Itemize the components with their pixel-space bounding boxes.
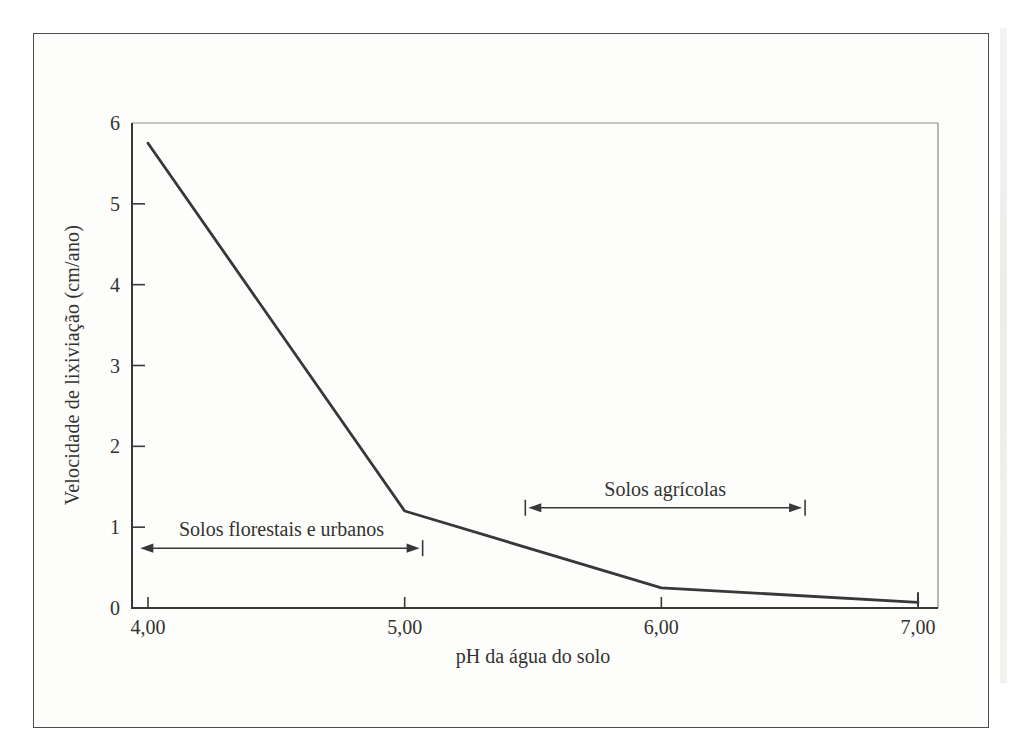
- y-tick-label: 5: [110, 192, 120, 215]
- y-tick-label: 1: [110, 516, 120, 539]
- scanned-textbook-figure: Velocidade de lixiviação (cm/ano) pH da …: [0, 0, 1013, 751]
- x-tick-label: 6,00: [644, 616, 679, 639]
- annotation-label-solos-agricolas: Solos agrícolas: [604, 478, 726, 501]
- y-tick-label: 6: [110, 112, 120, 135]
- y-axis-title: Velocidade de lixiviação (cm/ano): [61, 225, 84, 505]
- x-tick-label: 4,00: [131, 616, 166, 639]
- scan-edge-artifact: [1000, 28, 1007, 683]
- x-axis-title: pH da água do solo: [456, 645, 610, 668]
- annotation-label-solos-florestais-e-urbanos: Solos florestais e urbanos: [179, 518, 384, 541]
- x-tick-label: 5,00: [387, 616, 422, 639]
- annotation-arrowhead-right: [407, 544, 420, 553]
- x-tick-label: 7,00: [901, 616, 936, 639]
- annotation-arrowhead-left: [140, 544, 153, 553]
- y-tick-label: 2: [110, 435, 120, 458]
- y-tick-label: 4: [110, 273, 120, 296]
- annotation-arrowhead-left: [528, 503, 541, 512]
- y-tick-label: 3: [110, 354, 120, 377]
- annotation-arrowhead-right: [789, 503, 802, 512]
- y-tick-label: 0: [110, 597, 120, 620]
